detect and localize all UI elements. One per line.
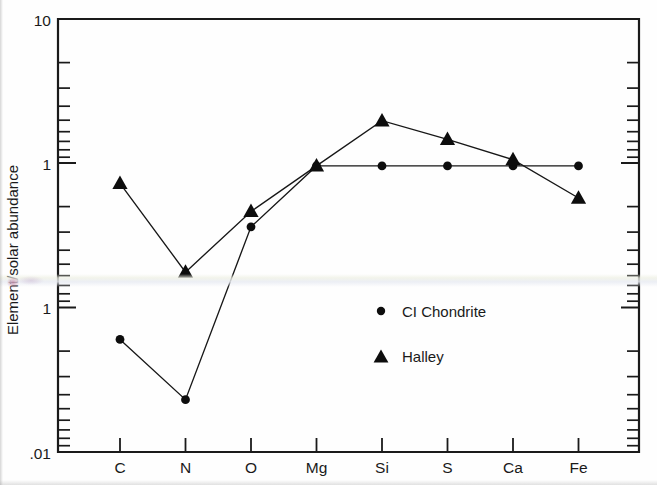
y-tick-label-point1: 1 — [42, 300, 51, 317]
plot-frame — [58, 19, 639, 452]
series-ci-chondrite — [116, 161, 583, 404]
data-point-circle — [574, 161, 583, 170]
legend-marker-circle-icon — [377, 307, 385, 315]
abundance-plot: 10 1 1 .01 C N O Mg Si S Ca Fe Element/s… — [0, 0, 657, 485]
data-point-triangle — [374, 113, 389, 127]
x-tick-label-c: C — [114, 459, 125, 476]
data-point-circle — [247, 222, 256, 231]
series-line — [120, 121, 579, 272]
y-tick-labels: 10 1 1 .01 — [29, 12, 51, 462]
y-axis-title: Element/solar abundance — [4, 165, 21, 335]
y-axis-ticks-left — [58, 19, 76, 452]
data-point-circle — [181, 395, 190, 404]
legend-marker-triangle-icon — [374, 350, 389, 363]
data-point-triangle — [309, 158, 324, 172]
data-point-circle — [116, 335, 125, 344]
legend-label-halley: Halley — [402, 348, 444, 365]
y-tick-label-1: 1 — [42, 156, 51, 173]
x-tick-label-ca: Ca — [503, 459, 523, 476]
y-tick-label-10: 10 — [34, 12, 52, 29]
series-line — [120, 166, 579, 400]
data-point-triangle — [112, 175, 127, 189]
x-tick-label-si: Si — [375, 459, 389, 476]
data-point-circle — [443, 161, 452, 170]
data-point-triangle — [243, 204, 258, 218]
x-tick-labels: C N O Mg Si S Ca Fe — [114, 459, 587, 476]
x-axis-ticks — [120, 438, 579, 452]
series-halley — [112, 113, 586, 278]
y-axis-ticks-right — [621, 19, 639, 452]
x-tick-label-n: N — [180, 459, 191, 476]
legend-label-ci-chondrite: CI Chondrite — [402, 303, 486, 320]
y-tick-label-point01: .01 — [29, 445, 51, 462]
data-point-circle — [378, 161, 387, 170]
data-point-triangle — [571, 190, 586, 204]
x-tick-label-o: O — [245, 459, 257, 476]
x-tick-label-mg: Mg — [306, 459, 328, 476]
x-tick-label-fe: Fe — [569, 459, 587, 476]
chart-figure: 10 1 1 .01 C N O Mg Si S Ca Fe Element/s… — [0, 0, 657, 485]
legend: CI Chondrite Halley — [374, 303, 487, 365]
x-tick-label-s: S — [442, 459, 452, 476]
